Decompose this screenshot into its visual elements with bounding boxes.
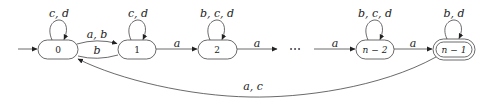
self-loop-1 <box>129 20 146 40</box>
self-loop-label-1: c, d <box>128 8 148 19</box>
edge-label-n-1-to-0: a, c <box>243 81 263 92</box>
self-loop-n-1 <box>445 20 462 39</box>
self-loop-label-n-1: b, d <box>443 8 464 19</box>
edge-label-n-2-to-n-1: a <box>410 38 417 49</box>
self-loop-label-0: c, d <box>49 8 69 19</box>
automaton-diagram: c, d c, d b, c, d b, c, d b, d 0 1 2 n −… <box>0 0 493 101</box>
self-loop-label-2: b, c, d <box>200 8 234 19</box>
edge-label-dots-to-n-2: a <box>332 38 339 49</box>
state-n-2-label: n − 2 <box>363 46 388 55</box>
edge-label-1-to-2: a <box>174 38 181 49</box>
edge-label-1-to-0: b <box>93 45 100 56</box>
self-loop-2 <box>208 20 225 40</box>
self-loop-0 <box>50 20 67 40</box>
edge-label-0-to-1: a, b <box>87 29 108 40</box>
self-loop-n-2 <box>366 20 383 40</box>
state-0-label: 0 <box>55 46 61 55</box>
state-n-1-label: n − 1 <box>442 46 467 55</box>
edge-label-2-to-dots: a <box>254 38 261 49</box>
ellipsis: ⋯ <box>289 43 301 55</box>
state-2-label: 2 <box>214 46 220 55</box>
self-loop-label-n-2: b, c, d <box>358 8 392 19</box>
state-1-label: 1 <box>134 46 140 55</box>
